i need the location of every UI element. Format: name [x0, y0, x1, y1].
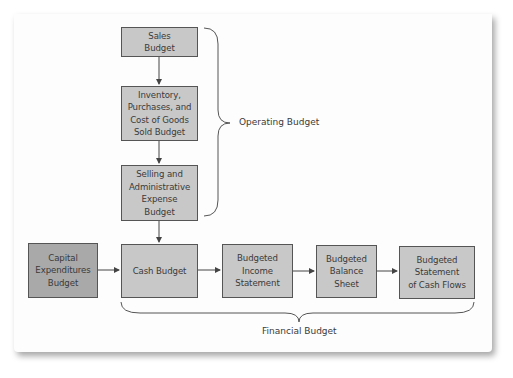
budgeted-balance-sheet-node: Budgeted Balance Sheet	[316, 245, 377, 298]
inventory-purchases-cogs-budget-node: Inventory, Purchases, and Cost of Goods …	[121, 86, 198, 141]
capital-expenditures-budget-node: Capital Expenditures Budget	[28, 243, 98, 298]
sales-budget-node: Sales Budget	[121, 27, 198, 57]
budgeted-statement-cash-flows-node: Budgeted Statement of Cash Flows	[399, 246, 475, 299]
financial-budget-label: Financial Budget	[262, 326, 337, 336]
selling-admin-expense-budget-node: Selling and Administrative Expense Budge…	[121, 165, 198, 221]
budgeted-income-statement-node: Budgeted Income Statement	[222, 244, 293, 298]
operating-budget-brace	[204, 28, 230, 216]
cash-budget-node: Cash Budget	[121, 244, 198, 298]
connectors-layer	[0, 0, 513, 378]
operating-budget-label: Operating Budget	[239, 117, 319, 127]
financial-budget-brace	[121, 302, 474, 322]
